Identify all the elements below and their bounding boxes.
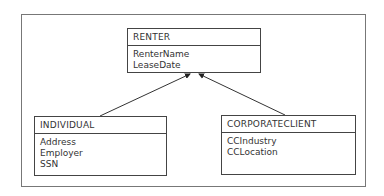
entity-renter-title: RENTER [128, 29, 260, 46]
entity-individual: INDIVIDUAL Address Employer SSN [34, 116, 167, 176]
individual-to-renter-arrow [100, 74, 190, 116]
attribute-cclocation: CCLocation [227, 147, 355, 158]
attribute-rentername: RenterName [133, 49, 260, 60]
attribute-leasedate: LeaseDate [133, 60, 260, 71]
entity-corporateclient-title: CORPORATECLIENT [222, 116, 355, 133]
attribute-address: Address [40, 137, 166, 148]
corporateclient-to-renter-arrow [199, 74, 285, 115]
entity-renter: RENTER RenterName LeaseDate [127, 28, 261, 73]
entity-corporateclient: CORPORATECLIENT CCIndustry CCLocation [221, 115, 356, 175]
entity-individual-title: INDIVIDUAL [35, 117, 166, 134]
attribute-employer: Employer [40, 148, 166, 159]
attribute-ssn: SSN [40, 159, 166, 170]
attribute-ccindustry: CCIndustry [227, 136, 355, 147]
